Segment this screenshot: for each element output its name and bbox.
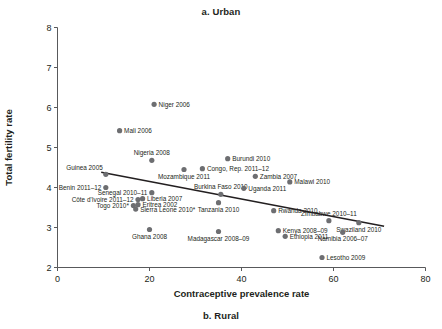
data-point-marker	[117, 128, 122, 133]
data-point-label: Nigeria 2008	[134, 149, 171, 157]
panel-title-bottom: b. Rural	[0, 310, 442, 321]
data-point-marker	[200, 166, 205, 171]
data-point-label: Malawi 2010	[294, 178, 330, 185]
data-point-label: Zimbabwe 2010–11	[301, 210, 357, 217]
x-tick-label: 80	[420, 274, 430, 284]
data-point-marker	[319, 255, 324, 260]
data-point-marker	[356, 220, 361, 225]
y-tick-label: 6	[46, 103, 51, 113]
data-point-label: Burkina Faso 2010	[194, 183, 248, 190]
y-tick-label: 3	[46, 223, 51, 233]
x-tick-label: 60	[328, 274, 338, 284]
data-point-label: Zambia 2007	[260, 173, 298, 180]
data-point-marker	[216, 229, 221, 234]
y-axis-title: Total fertility rate	[3, 109, 14, 185]
y-tick-label: 4	[46, 183, 51, 193]
x-tick-label: 40	[236, 274, 246, 284]
data-point-marker	[253, 174, 258, 179]
data-point-marker	[287, 179, 292, 184]
data-point-label: Benin 2011–12	[59, 184, 102, 191]
data-point-label: Togo 2010*	[97, 202, 130, 210]
y-tick-label: 5	[46, 143, 51, 153]
y-tick-label: 7	[46, 63, 51, 73]
data-point-marker	[181, 167, 186, 172]
data-point-marker	[271, 208, 276, 213]
data-point-marker	[241, 186, 246, 191]
data-point-label: Burundi 2010	[232, 155, 270, 162]
data-point-marker	[276, 228, 281, 233]
data-point-label: Guinea 2005	[66, 164, 103, 171]
data-point-marker	[218, 192, 223, 197]
data-point-marker	[326, 218, 331, 223]
data-point-label: Madagascar 2008–09	[188, 235, 250, 243]
x-tick-label: 0	[55, 274, 60, 284]
x-tick-label: 20	[144, 274, 154, 284]
data-point-label: Sierra Leone 2010*	[140, 206, 196, 213]
scatter-plot: 2345678020406080Contraceptive prevalence…	[0, 0, 442, 300]
data-point-label: Ethiopia 2011	[290, 233, 329, 241]
data-point-marker	[152, 102, 157, 107]
data-point-marker	[225, 156, 230, 161]
data-point-label: Uganda 2011	[248, 185, 286, 193]
data-point-marker	[135, 197, 140, 202]
data-point-marker	[149, 158, 154, 163]
data-point-marker	[216, 200, 221, 205]
data-point-label: Tanzania 2010	[198, 206, 240, 213]
data-point-marker	[133, 207, 138, 212]
data-point-marker	[103, 172, 108, 177]
data-point-label: Ghana 2008	[132, 233, 168, 240]
data-point-label: Niger 2006	[159, 101, 191, 109]
y-tick-label: 2	[46, 263, 51, 273]
figure-urban-fertility-scatter: a. Urban 2345678020406080Contraceptive p…	[0, 0, 442, 329]
data-point-marker	[283, 234, 288, 239]
x-axis-title: Contraceptive prevalence rate	[174, 288, 310, 299]
data-point-marker	[340, 230, 345, 235]
data-point-label: Mali 2006	[124, 127, 152, 134]
data-point-label: Mozambique 2011	[158, 173, 211, 181]
data-point-marker	[147, 227, 152, 232]
y-tick-label: 8	[46, 23, 51, 33]
data-point-label: Lesotho 2009	[327, 254, 366, 261]
